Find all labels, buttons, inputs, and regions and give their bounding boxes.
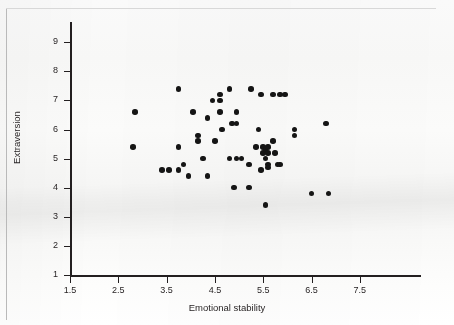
scatter-point	[205, 115, 211, 121]
x-axis-tick	[263, 277, 264, 283]
scatter-point	[176, 86, 182, 92]
y-axis-tick-label: 1	[40, 270, 58, 279]
x-axis-tick	[312, 277, 313, 283]
scatter-point	[246, 162, 252, 168]
x-axis-tick	[360, 277, 361, 283]
scatter-point	[130, 144, 136, 150]
x-axis-tick	[167, 277, 168, 283]
y-axis-tick-label: 3	[40, 212, 58, 221]
x-axis-tick-label: 2.5	[98, 286, 138, 295]
scatter-point	[212, 138, 218, 144]
scatter-point	[234, 109, 240, 115]
scatter-point	[190, 109, 196, 115]
x-axis-tick-label: 6.5	[292, 286, 332, 295]
scatter-point	[246, 185, 252, 191]
scatter-point	[195, 138, 201, 144]
x-axis-tick-label: 1.5	[50, 286, 90, 295]
scatter-point	[253, 144, 259, 150]
x-axis-tick	[70, 277, 71, 283]
y-axis-tick-label: 5	[40, 154, 58, 163]
scatter-point	[292, 133, 298, 139]
scatter-point	[231, 185, 237, 191]
x-axis-tick-label: 5.5	[243, 286, 283, 295]
x-axis-tick	[215, 277, 216, 283]
plot-area	[70, 22, 420, 276]
scatter-point	[210, 98, 216, 104]
scatter-point	[323, 121, 329, 127]
y-axis-tick-label: 4	[40, 183, 58, 192]
page-top-rule	[6, 8, 436, 9]
scatter-point	[132, 109, 138, 115]
scatter-point	[186, 173, 192, 179]
y-axis-tick-label: 8	[40, 66, 58, 75]
scatter-point	[258, 167, 264, 173]
y-axis-tick-label: 6	[40, 125, 58, 134]
scatter-point	[227, 86, 233, 92]
scatter-point	[195, 133, 201, 139]
scatter-point	[277, 162, 283, 168]
scatter-point	[181, 162, 187, 168]
x-axis-tick-label: 7.5	[340, 286, 380, 295]
scatter-point	[219, 127, 225, 133]
y-axis-tick-label: 9	[40, 37, 58, 46]
scatter-plot-figure: Emotional stability Extraversion 1234567…	[0, 0, 454, 325]
scatter-point	[265, 150, 271, 156]
scatter-point	[326, 191, 332, 197]
scatter-point	[239, 156, 245, 162]
x-axis-tick	[118, 277, 119, 283]
scatter-point	[309, 191, 315, 197]
x-axis-tick-label: 3.5	[147, 286, 187, 295]
scatter-point	[176, 144, 182, 150]
page-left-rule	[6, 8, 7, 320]
scatter-point	[265, 165, 271, 171]
scatter-point	[272, 150, 278, 156]
scatter-point	[227, 156, 233, 162]
scatter-point	[292, 127, 298, 133]
y-axis-title: Extraversion	[11, 68, 22, 208]
scatter-point	[159, 167, 165, 173]
scatter-point	[176, 167, 182, 173]
x-axis-tick-label: 4.5	[195, 286, 235, 295]
scatter-point	[282, 92, 288, 98]
y-axis-tick-label: 7	[40, 95, 58, 104]
y-axis-tick-label: 2	[40, 241, 58, 250]
scatter-point	[263, 156, 269, 162]
scatter-point	[217, 92, 223, 98]
scatter-point	[256, 127, 262, 133]
scatter-point	[217, 98, 223, 104]
scatter-point	[205, 173, 211, 179]
scatter-point	[263, 202, 269, 208]
scatter-point	[248, 86, 254, 92]
scatter-point	[270, 138, 276, 144]
scatter-point	[166, 167, 172, 173]
scatter-point	[258, 92, 264, 98]
scatter-point	[200, 156, 206, 162]
scatter-point	[217, 109, 223, 115]
x-axis-title: Emotional stability	[0, 302, 454, 313]
scatter-point	[270, 92, 276, 98]
scatter-point	[234, 121, 240, 127]
scatter-point	[265, 144, 271, 150]
